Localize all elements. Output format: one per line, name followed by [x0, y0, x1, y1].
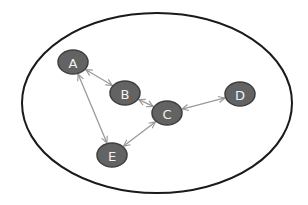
edge-c-d [182, 98, 225, 109]
edges-group [78, 70, 225, 146]
node-e: E [97, 143, 127, 167]
nodes-group: ABCDE [58, 50, 255, 167]
edge-c-e [124, 122, 156, 146]
node-label: D [235, 88, 245, 103]
node-label: E [108, 149, 116, 164]
node-b: B [110, 81, 140, 105]
node-label: B [121, 87, 130, 102]
edge-b-c [139, 100, 153, 107]
node-d: D [225, 82, 255, 106]
node-label: A [69, 56, 78, 71]
graph-diagram: ABCDE [0, 0, 308, 205]
boundary-ellipse [22, 13, 292, 193]
node-c: C [152, 101, 182, 125]
node-a: A [58, 50, 88, 74]
edge-a-e [78, 74, 107, 142]
node-label: C [162, 107, 171, 122]
edge-a-b [86, 70, 112, 86]
